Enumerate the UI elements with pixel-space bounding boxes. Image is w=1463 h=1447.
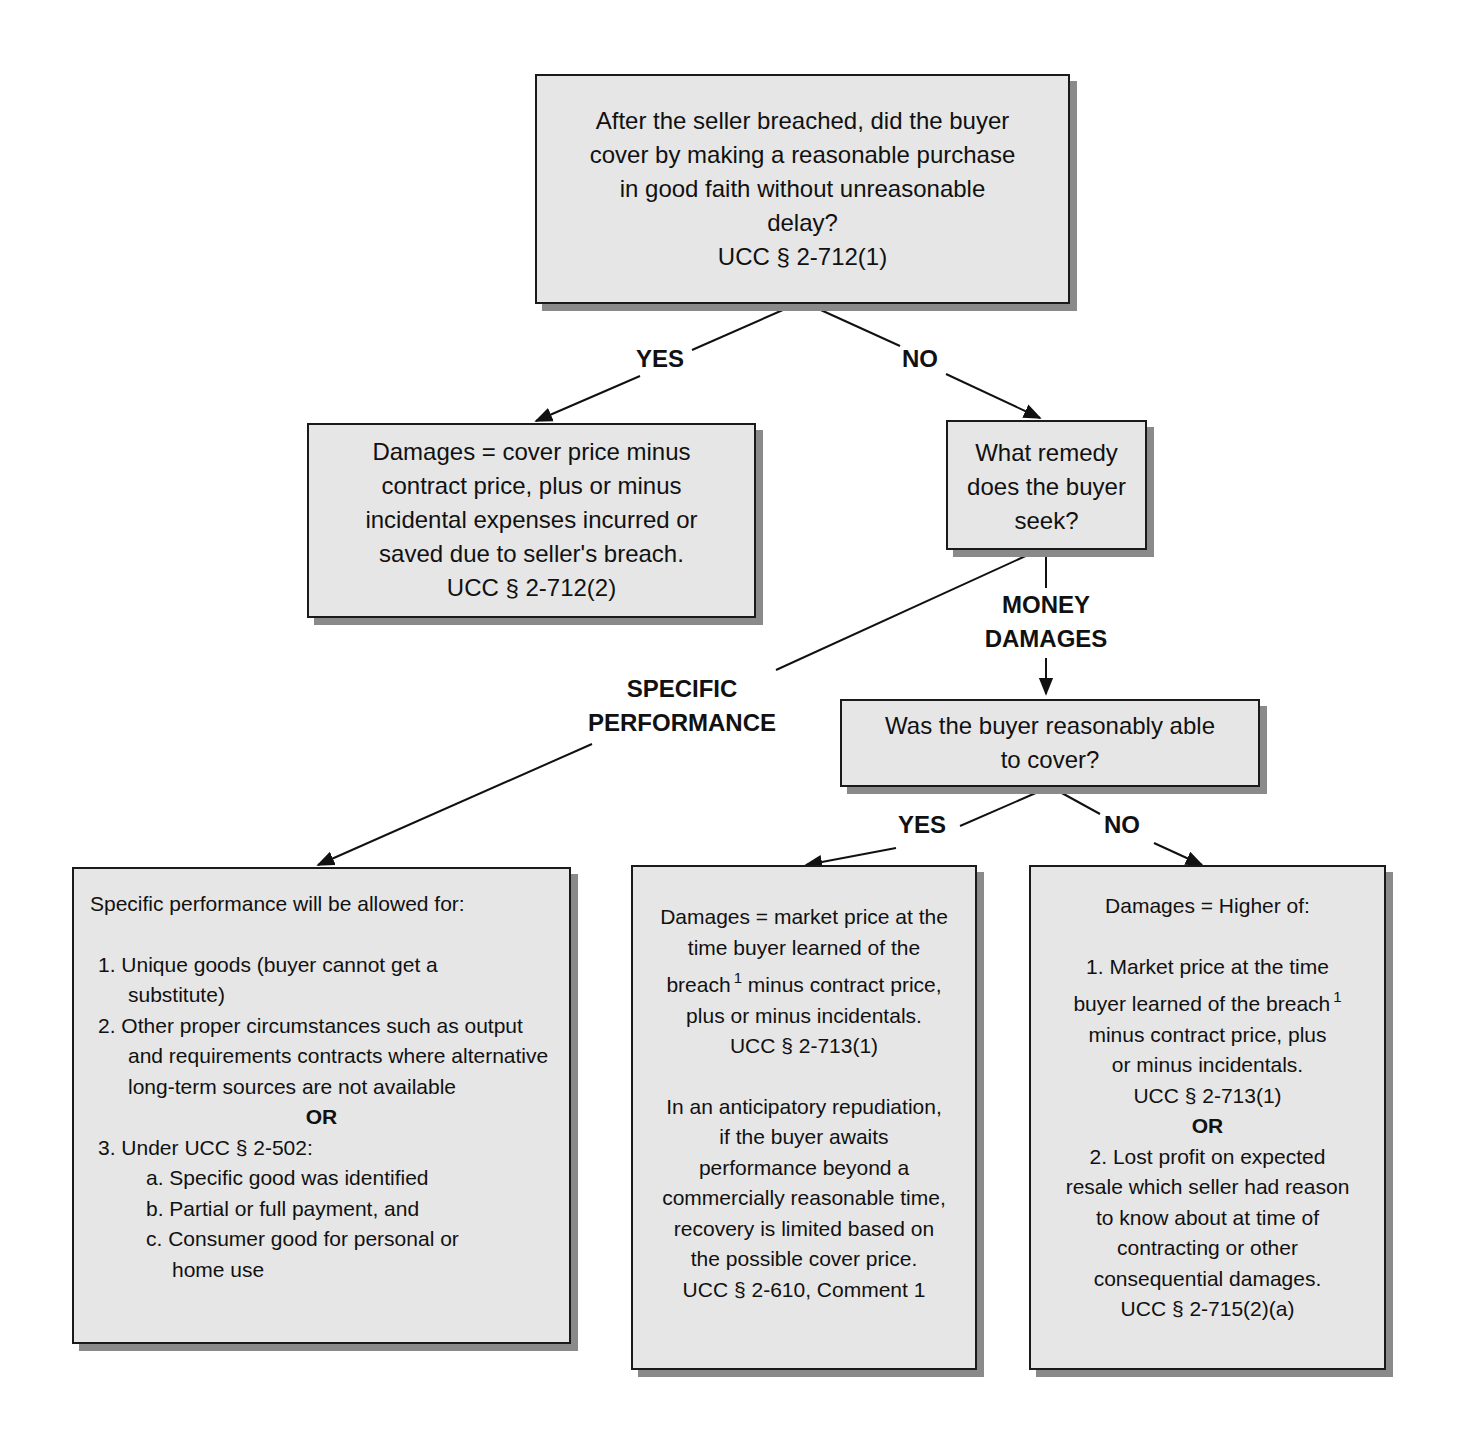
remedy-line: seek?	[948, 504, 1145, 538]
root-question-box: After the seller breached, did the buyer…	[535, 74, 1070, 304]
footnote-marker: 1	[1333, 988, 1341, 1005]
root-citation: UCC § 2-712(1)	[537, 240, 1068, 274]
ho-or: OR	[1031, 1111, 1384, 1142]
sp-item-2: 2. Other proper circumstances such as ou…	[98, 1011, 553, 1103]
edge-label-specific-performance: SPECIFIC PERFORMANCE	[566, 672, 798, 740]
sp-sub-b: b. Partial or full payment, and	[66, 1194, 553, 1225]
md-para2-line: commercially reasonable time,	[633, 1183, 975, 1214]
remedy-line: does the buyer	[948, 470, 1145, 504]
md-citation: UCC § 2-713(1)	[633, 1031, 975, 1062]
md-text: breach	[666, 973, 730, 996]
md-line: Damages = market price at the	[633, 902, 975, 933]
sp-intro: Specific performance will be allowed for…	[90, 889, 553, 920]
md-para2-line: performance beyond a	[633, 1153, 975, 1184]
edge-label-no: NO	[902, 342, 938, 376]
higher-of-box: Damages = Higher of: 1. Market price at …	[1029, 865, 1386, 1370]
edge-label-money-damages: MONEY DAMAGES	[966, 588, 1126, 656]
sp-or: OR	[90, 1102, 553, 1133]
edge-label-line: SPECIFIC	[566, 672, 798, 706]
cover-damages-line: Damages = cover price minus	[309, 435, 754, 469]
sp-item-3: 3. Under UCC § 2-502:	[98, 1133, 553, 1164]
md-para2-line: recovery is limited based on	[633, 1214, 975, 1245]
able-to-cover-line: Was the buyer reasonably able	[842, 709, 1258, 743]
ho-citation: UCC § 2-713(1)	[1031, 1081, 1384, 1112]
edge-label-yes: YES	[898, 808, 946, 842]
cover-damages-line: saved due to seller's breach.	[309, 537, 754, 571]
md-line: breach1 minus contract price,	[633, 963, 975, 1001]
market-damages-box: Damages = market price at the time buyer…	[631, 865, 977, 1370]
cover-damages-line: incidental expenses incurred or	[309, 503, 754, 537]
remedy-question-box: What remedy does the buyer seek?	[946, 420, 1147, 550]
cover-damages-box: Damages = cover price minus contract pri…	[307, 423, 756, 618]
md-citation: UCC § 2-610, Comment 1	[633, 1275, 975, 1306]
md-line: plus or minus incidentals.	[633, 1001, 975, 1032]
ho-line: 2. Lost profit on expected	[1031, 1142, 1384, 1173]
root-line: delay?	[537, 206, 1068, 240]
edge-label-yes: YES	[636, 342, 684, 376]
md-para2-line: the possible cover price.	[633, 1244, 975, 1275]
md-text: minus contract price,	[742, 973, 942, 996]
edge-label-line: DAMAGES	[966, 622, 1126, 656]
md-para2-line: if the buyer awaits	[633, 1122, 975, 1153]
md-para2-line: In an anticipatory repudiation,	[633, 1092, 975, 1123]
remedy-line: What remedy	[948, 436, 1145, 470]
cover-damages-line: contract price, plus or minus	[309, 469, 754, 503]
sp-item-1: 1. Unique goods (buyer cannot get a subs…	[98, 950, 553, 1011]
specific-performance-box: Specific performance will be allowed for…	[72, 867, 571, 1344]
ho-line: to know about at time of	[1031, 1203, 1384, 1234]
ho-title: Damages = Higher of:	[1031, 891, 1384, 922]
edge-label-line: MONEY	[966, 588, 1126, 622]
able-to-cover-box: Was the buyer reasonably able to cover?	[840, 699, 1260, 787]
ho-line: or minus incidentals.	[1031, 1050, 1384, 1081]
ho-line: contracting or other	[1031, 1233, 1384, 1264]
root-line: in good faith without unreasonable	[537, 172, 1068, 206]
edge-label-no: NO	[1104, 808, 1140, 842]
ho-line: buyer learned of the breach1	[1031, 982, 1384, 1020]
footnote-marker: 1	[734, 969, 742, 986]
edge-label-line: PERFORMANCE	[566, 706, 798, 740]
ho-line: minus contract price, plus	[1031, 1020, 1384, 1051]
root-line: cover by making a reasonable purchase	[537, 138, 1068, 172]
ho-citation: UCC § 2-715(2)(a)	[1031, 1294, 1384, 1325]
ho-line: consequential damages.	[1031, 1264, 1384, 1295]
sp-sub-c: c. Consumer good for personal or home us…	[66, 1224, 553, 1285]
root-line: After the seller breached, did the buyer	[537, 104, 1068, 138]
ho-line: 1. Market price at the time	[1031, 952, 1384, 983]
able-to-cover-line: to cover?	[842, 743, 1258, 777]
md-line: time buyer learned of the	[633, 933, 975, 964]
cover-damages-citation: UCC § 2-712(2)	[309, 571, 754, 605]
sp-sub-a: a. Specific good was identified	[66, 1163, 553, 1194]
ho-line: resale which seller had reason	[1031, 1172, 1384, 1203]
ho-text: buyer learned of the breach	[1073, 992, 1330, 1015]
